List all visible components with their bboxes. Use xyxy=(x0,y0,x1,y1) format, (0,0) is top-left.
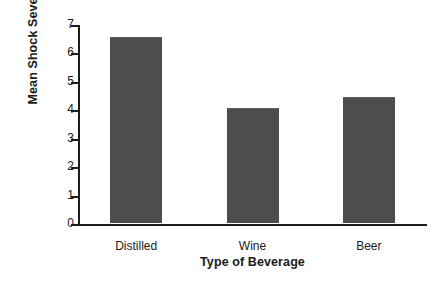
y-axis-title: Mean Shock Severity xyxy=(21,0,45,156)
plot-area: 0 1 2 3 4 5 6 7 xyxy=(78,25,427,224)
bar-chart-figure: Mean Shock Severity 0 1 2 3 4 5 xyxy=(0,0,442,284)
bar-beer xyxy=(343,97,395,223)
y-tick-label: 7 xyxy=(67,17,74,31)
y-tick-label: 1 xyxy=(67,188,74,202)
y-tick-label: 2 xyxy=(67,159,74,173)
x-tick-label-beer: Beer xyxy=(309,239,429,253)
y-tick-label: 3 xyxy=(67,131,74,145)
y-tick-label: 0 xyxy=(67,216,74,230)
x-tick-label-wine: Wine xyxy=(193,239,313,253)
bar-distilled xyxy=(110,37,162,223)
y-axis-line xyxy=(78,25,80,224)
y-tick-label: 5 xyxy=(67,74,74,88)
x-tick-label-distilled: Distilled xyxy=(76,239,196,253)
bar-wine xyxy=(227,108,279,223)
x-axis-title: Type of Beverage xyxy=(78,255,427,269)
y-tick-label: 6 xyxy=(67,45,74,59)
x-axis-line xyxy=(78,224,427,226)
y-tick-label: 4 xyxy=(67,102,74,116)
